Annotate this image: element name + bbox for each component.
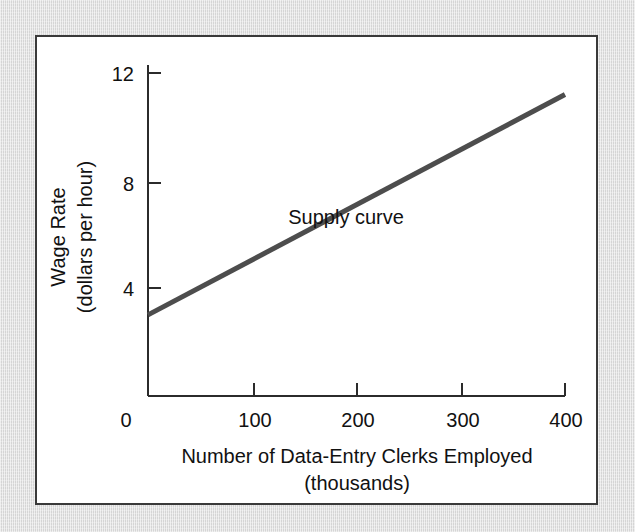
x-tick-label-200: 200 (341, 409, 374, 431)
x-axis-title-line1: Number of Data-Entry Clerks Employed (181, 445, 532, 467)
x-tick-label-0: 0 (120, 409, 131, 431)
y-axis (148, 65, 161, 396)
y-axis-title-line2: (dollars per hour) (74, 161, 96, 313)
y-tick-label-4: 4 (123, 278, 134, 300)
y-tick-label-12: 12 (112, 63, 134, 85)
figure-panel: 12 8 4 0 100 200 300 400 Supply curve Nu… (35, 35, 598, 505)
x-tick-label-300: 300 (446, 409, 479, 431)
x-axis-title-line2: (thousands) (304, 472, 410, 494)
x-tick-label-400: 400 (549, 409, 582, 431)
x-axis (148, 383, 565, 396)
supply-curve-chart: 12 8 4 0 100 200 300 400 Supply curve Nu… (37, 37, 596, 503)
x-tick-label-100: 100 (238, 409, 271, 431)
y-tick-label-8: 8 (123, 173, 134, 195)
supply-curve-annotation: Supply curve (288, 206, 404, 228)
y-axis-title-line1: Wage Rate (47, 187, 69, 286)
